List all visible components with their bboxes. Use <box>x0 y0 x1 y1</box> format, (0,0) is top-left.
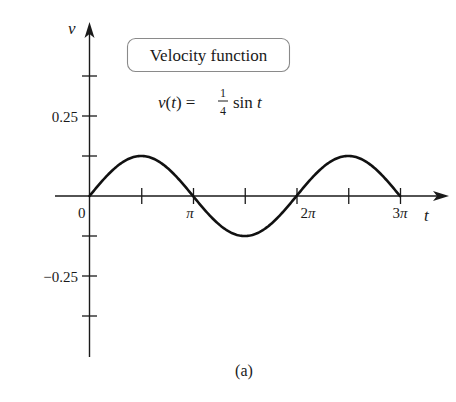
x-tick-label-pi: π <box>186 205 194 221</box>
figure-caption: (a) <box>235 362 253 380</box>
velocity-chart: v t 0.25 −0.25 0 π 2π 3π Velocity functi… <box>0 0 456 402</box>
y-tick-label-pos: 0.25 <box>52 109 78 125</box>
svg-text:v(t) =: v(t) = <box>158 93 195 112</box>
svg-text:sin t: sin t <box>233 93 263 112</box>
chart-title: Velocity function <box>150 46 268 65</box>
x-axis-label: t <box>424 206 430 225</box>
x-tick-label-origin: 0 <box>78 205 86 221</box>
formula: v(t) = 1 4 sin t <box>158 86 263 118</box>
x-tick-label-2pi: 2π <box>300 205 316 221</box>
y-axis-label: v <box>68 19 76 38</box>
formula-denominator: 4 <box>220 104 226 118</box>
y-tick-label-neg: −0.25 <box>43 269 78 285</box>
formula-numerator: 1 <box>220 86 226 100</box>
axes <box>55 30 440 357</box>
x-tick-label-3pi: 3π <box>392 205 408 221</box>
